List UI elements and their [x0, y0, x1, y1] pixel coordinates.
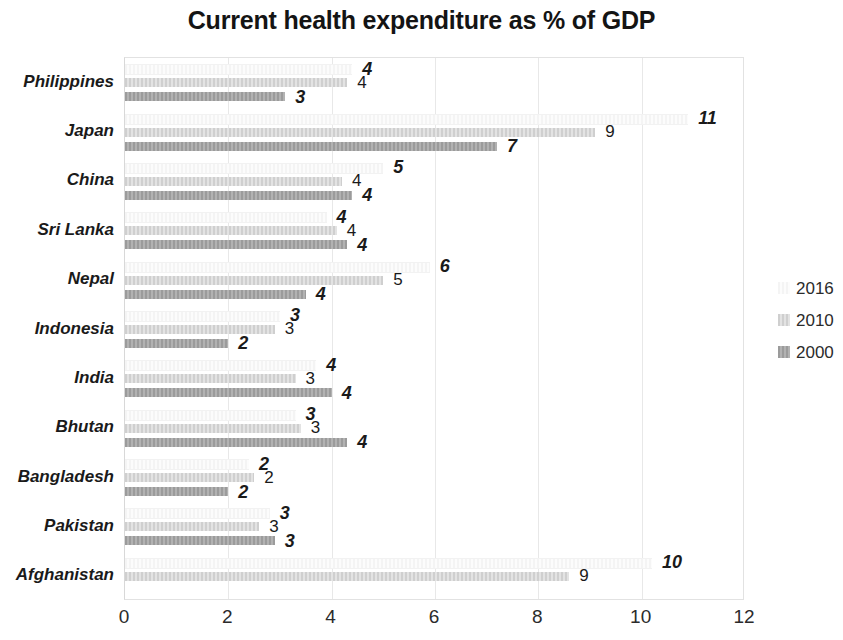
bar-group: 333	[125, 502, 743, 551]
category-label-india: India	[0, 369, 114, 386]
bar-2000-japan[interactable]	[125, 142, 497, 151]
bar-2010-india[interactable]	[125, 374, 296, 383]
bar-2000-china[interactable]	[125, 191, 352, 200]
bar-2010-china[interactable]	[125, 177, 342, 186]
category-label-philippines: Philippines	[0, 73, 114, 90]
category-label-china: China	[0, 171, 114, 188]
bar-value-label: 9	[605, 123, 614, 140]
bar-2000-bhutan[interactable]	[125, 438, 347, 447]
bar-2010-bangladesh[interactable]	[125, 473, 254, 482]
bar-2010-sri-lanka[interactable]	[125, 226, 337, 235]
bar-value-label: 4	[357, 74, 366, 91]
bar-value-label: 4	[337, 208, 347, 226]
bar-2016-indonesia[interactable]	[125, 311, 280, 322]
bar-value-label: 4	[362, 186, 372, 204]
chart-container: Current health expenditure as % of GDP 4…	[0, 0, 843, 640]
bar-value-label: 3	[306, 370, 315, 387]
legend-item-2010[interactable]: 2010	[778, 304, 843, 336]
x-tick-6: 6	[404, 606, 464, 628]
legend-item-2000[interactable]: 2000	[778, 336, 843, 368]
chart-title: Current health expenditure as % of GDP	[0, 6, 843, 35]
legend-swatch-icon	[778, 314, 790, 326]
legend-label: 2016	[796, 280, 834, 297]
bar-group: 434	[125, 354, 743, 403]
bar-value-label: 9	[579, 567, 588, 584]
bar-group: 334	[125, 404, 743, 453]
bar-2010-afghanistan[interactable]	[125, 572, 569, 581]
category-label-bhutan: Bhutan	[0, 418, 114, 435]
legend-swatch-icon	[778, 346, 790, 358]
bar-group: 544	[125, 157, 743, 206]
bar-group: 1197	[125, 107, 743, 156]
bar-value-label: 4	[352, 172, 361, 189]
bar-value-label: 2	[264, 469, 273, 486]
bar-value-label: 2	[238, 334, 248, 352]
legend-swatch-icon	[778, 282, 790, 294]
category-label-pakistan: Pakistan	[0, 517, 114, 534]
bar-value-label: 4	[347, 222, 356, 239]
bar-value-label: 4	[316, 285, 326, 303]
category-label-japan: Japan	[0, 122, 114, 139]
plot-area: 4431197544444654332434334222333109	[124, 57, 744, 600]
bar-value-label: 6	[440, 257, 450, 275]
bar-group: 443	[125, 58, 743, 107]
bar-2016-china[interactable]	[125, 163, 383, 174]
bar-value-label: 7	[507, 137, 517, 155]
category-label-sri-lanka: Sri Lanka	[0, 221, 114, 238]
bar-2010-indonesia[interactable]	[125, 325, 275, 334]
bar-group: 654	[125, 255, 743, 304]
bar-2016-sri-lanka[interactable]	[125, 212, 327, 223]
chart-legend: 201620102000	[778, 272, 843, 368]
bar-value-label: 3	[269, 518, 278, 535]
bar-value-label: 4	[326, 356, 336, 374]
bar-value-label: 10	[662, 553, 682, 571]
bar-2016-bhutan[interactable]	[125, 410, 296, 421]
legend-item-2016[interactable]: 2016	[778, 272, 843, 304]
legend-label: 2000	[796, 344, 834, 361]
bar-2010-japan[interactable]	[125, 128, 595, 137]
bar-group: 332	[125, 305, 743, 354]
bar-group: 222	[125, 453, 743, 502]
bar-2000-philippines[interactable]	[125, 92, 285, 101]
x-tick-8: 8	[507, 606, 567, 628]
bar-2016-bangladesh[interactable]	[125, 459, 249, 470]
bar-value-label: 3	[295, 88, 305, 106]
bar-value-label: 11	[698, 109, 717, 127]
bar-value-label: 5	[393, 158, 403, 176]
bar-2000-indonesia[interactable]	[125, 339, 228, 348]
legend-label: 2010	[796, 312, 834, 329]
x-tick-0: 0	[94, 606, 154, 628]
bar-value-label: 4	[342, 384, 352, 402]
bar-2010-philippines[interactable]	[125, 78, 347, 87]
bar-value-label: 2	[238, 483, 248, 501]
bar-value-label: 3	[285, 320, 294, 337]
bar-2016-japan[interactable]	[125, 114, 688, 125]
bar-2000-pakistan[interactable]	[125, 536, 275, 545]
x-tick-4: 4	[301, 606, 361, 628]
bar-2000-sri-lanka[interactable]	[125, 240, 347, 249]
bar-value-label: 3	[285, 532, 295, 550]
bar-2016-pakistan[interactable]	[125, 508, 270, 519]
bar-value-label: 3	[311, 419, 320, 436]
x-tick-2: 2	[197, 606, 257, 628]
bar-2000-bangladesh[interactable]	[125, 487, 228, 496]
bar-2010-pakistan[interactable]	[125, 522, 259, 531]
x-tick-10: 10	[611, 606, 671, 628]
bar-2016-india[interactable]	[125, 360, 316, 371]
category-label-nepal: Nepal	[0, 270, 114, 287]
bar-value-label: 4	[357, 433, 367, 451]
category-label-afghanistan: Afghanistan	[0, 566, 114, 583]
bar-value-label: 5	[393, 271, 402, 288]
bar-2010-bhutan[interactable]	[125, 424, 301, 433]
bar-group: 109	[125, 552, 743, 601]
bar-value-label: 3	[280, 504, 290, 522]
bar-2016-afghanistan[interactable]	[125, 558, 652, 569]
bar-2000-nepal[interactable]	[125, 290, 306, 299]
bar-value-label: 4	[357, 236, 367, 254]
bar-2016-nepal[interactable]	[125, 262, 430, 273]
bar-2000-india[interactable]	[125, 388, 332, 397]
bar-group: 444	[125, 206, 743, 255]
category-label-indonesia: Indonesia	[0, 320, 114, 337]
bar-2010-nepal[interactable]	[125, 276, 383, 285]
bar-2016-philippines[interactable]	[125, 64, 352, 75]
